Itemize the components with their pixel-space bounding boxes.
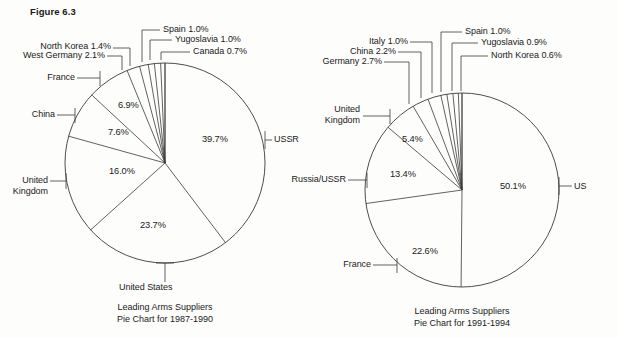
right-caption-line2: Pie Chart for 1991-1994 xyxy=(362,317,562,330)
right-slice-divider-2 xyxy=(366,190,462,204)
left-pct-ussr: 39.7% xyxy=(202,134,228,144)
right-slice-divider-1 xyxy=(461,190,462,287)
right-pct-united-kingdom: 5.4% xyxy=(402,134,423,144)
right-pie-group xyxy=(348,32,572,287)
left-label-france: France xyxy=(15,72,75,84)
right-pct-us: 50.1% xyxy=(500,181,526,191)
right-label-france: France xyxy=(313,259,371,271)
left-label-north-korea: North Korea 1.4% xyxy=(5,41,111,53)
right-label-spain: Spain 1.0% xyxy=(465,26,511,38)
right-pct-france: 22.6% xyxy=(412,246,438,256)
right-leader-northkorea xyxy=(461,56,488,91)
left-label-canada: Canada 0.7% xyxy=(193,46,247,58)
right-leader-spain xyxy=(441,32,462,92)
left-label-united-kingdom-line2: Kingdom xyxy=(0,186,48,198)
right-leader-germany xyxy=(384,62,409,104)
right-label-germany: Germany 2.7% xyxy=(288,56,382,68)
left-slice-divider-8 xyxy=(154,64,165,163)
left-pct-france: 6.9% xyxy=(118,100,139,110)
left-pct-united-kingdom: 16.0% xyxy=(109,166,135,176)
left-label-yugoslavia: Yugoslavia 1.0% xyxy=(175,34,241,46)
left-label-ussr-text: USSR xyxy=(274,134,299,146)
left-pct-china: 7.6% xyxy=(108,127,129,137)
right-label-north-korea: North Korea 0.6% xyxy=(491,50,562,62)
right-label-us: US xyxy=(574,181,586,193)
right-label-yugoslavia: Yugoslavia 0.9% xyxy=(481,37,547,49)
right-leader-china xyxy=(398,52,421,98)
left-label-united-kingdom-line1: United xyxy=(0,175,48,187)
left-pie-group xyxy=(50,30,272,282)
left-leader-westgermany xyxy=(107,56,122,70)
right-leader-yugoslavia xyxy=(452,43,478,91)
right-caption-line1: Leading Arms Suppliers xyxy=(362,305,562,318)
left-leader-northkorea xyxy=(113,48,130,66)
left-pct-united-states: 23.7% xyxy=(140,220,166,230)
right-label-united-kingdom-line1: United xyxy=(296,104,360,116)
left-caption-line2: Pie Chart for 1987-1990 xyxy=(65,313,265,326)
right-label-italy: Italy 1.0% xyxy=(328,36,408,48)
left-slice-divider-1 xyxy=(165,163,225,243)
left-label-china: China xyxy=(0,109,55,121)
charts-container: 39.7% 23.7% 16.0% 7.6% 6.9% USSR United … xyxy=(0,0,618,338)
left-leader-spain xyxy=(142,30,160,62)
right-label-united-kingdom-line2: Kingdom xyxy=(296,115,360,127)
left-caption-line1: Leading Arms Suppliers xyxy=(65,301,265,314)
left-leader-canada xyxy=(161,52,190,60)
right-pct-russia: 13.4% xyxy=(390,169,416,179)
right-slice-divider-4 xyxy=(413,106,462,190)
right-label-china: China 2.2% xyxy=(308,46,396,58)
left-label-united-states: United States xyxy=(119,282,172,294)
left-slice-divider-5 xyxy=(127,70,165,163)
right-slice-divider-3 xyxy=(388,127,462,190)
right-label-russia: Russia/USSR xyxy=(278,174,346,186)
